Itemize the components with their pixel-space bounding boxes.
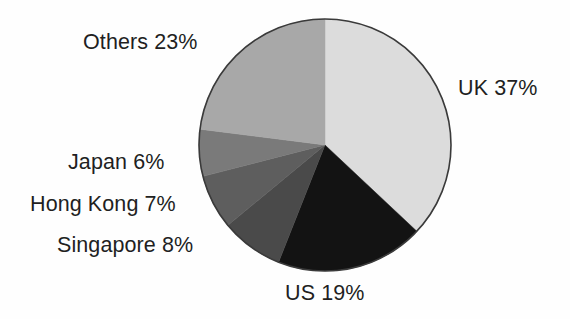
pie-slice-group [199,19,451,271]
pie-label-hong-kong: Hong Kong 7% [30,192,176,217]
pie-label-uk: UK 37% [458,76,537,101]
pie-slice-others [200,19,325,145]
pie-label-others: Others 23% [83,30,198,55]
pie-label-singapore: Singapore 8% [57,233,193,258]
pie-label-japan: Japan 6% [68,150,164,175]
pie-chart-figure: Others 23% UK 37% Japan 6% Hong Kong 7% … [0,0,570,319]
pie-label-us: US 19% [285,281,364,306]
